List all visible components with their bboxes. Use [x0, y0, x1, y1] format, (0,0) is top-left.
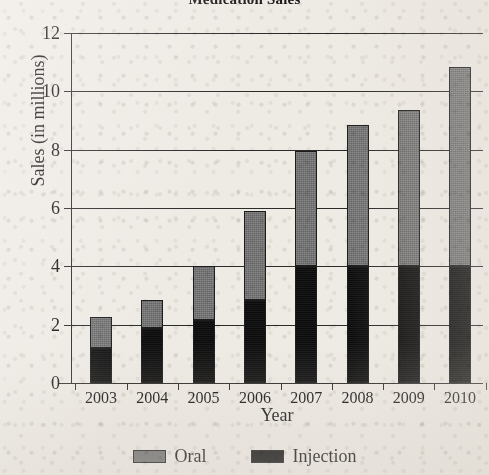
y-axis-title: Sales (in millions)	[28, 0, 49, 251]
x-tick-1	[178, 383, 179, 390]
y-tick-6	[64, 208, 71, 209]
x-tick-start	[75, 383, 76, 390]
legend-swatch-oral	[133, 450, 166, 463]
bar-2003[interactable]	[90, 33, 112, 383]
y-tick-4	[64, 266, 71, 267]
gridline-8	[71, 150, 483, 151]
legend-item-oral[interactable]: Oral	[133, 446, 207, 467]
gridline-4	[71, 266, 483, 267]
y-tick-12	[64, 33, 71, 34]
bar-segment-injection-2008[interactable]	[347, 266, 369, 383]
bar-segment-injection-2009[interactable]	[398, 266, 420, 383]
y-tick-2	[64, 325, 71, 326]
legend-swatch-injection	[251, 450, 284, 463]
bar-segment-injection-2004[interactable]	[141, 328, 163, 383]
bar-segment-injection-2010[interactable]	[449, 266, 471, 383]
x-tick-5	[383, 383, 384, 390]
legend-label-oral: Oral	[175, 446, 207, 467]
x-tick-3	[281, 383, 282, 390]
gridline-2	[71, 325, 483, 326]
y-tick-label-2: 2	[51, 314, 60, 335]
bar-segment-injection-2003[interactable]	[90, 348, 112, 383]
gridline-10	[71, 91, 483, 92]
bar-2010[interactable]	[449, 33, 471, 383]
bar-segment-oral-2008[interactable]	[347, 125, 369, 266]
x-axis-title: Year	[71, 405, 483, 426]
legend-label-injection: Injection	[293, 446, 357, 467]
y-tick-label-8: 8	[51, 139, 60, 160]
bar-2008[interactable]	[347, 33, 369, 383]
bar-segment-oral-2005[interactable]	[193, 266, 215, 320]
bar-segment-oral-2010[interactable]	[449, 67, 471, 267]
x-tick-0	[127, 383, 128, 390]
chart-title: Medication Sales	[0, 0, 489, 8]
x-tick-7	[486, 383, 487, 390]
x-axis-line	[59, 383, 483, 384]
bar-segment-oral-2007[interactable]	[295, 151, 317, 266]
bar-segment-injection-2007[interactable]	[295, 266, 317, 383]
bar-segment-injection-2005[interactable]	[193, 320, 215, 383]
x-tick-4	[332, 383, 333, 390]
y-tick-8	[64, 150, 71, 151]
y-tick-10	[64, 91, 71, 92]
chart-legend: OralInjection	[0, 446, 489, 467]
x-tick-6	[434, 383, 435, 390]
bar-segment-oral-2009[interactable]	[398, 110, 420, 266]
bar-segment-injection-2006[interactable]	[244, 300, 266, 383]
y-tick-label-0: 0	[51, 373, 60, 394]
gridline-6	[71, 208, 483, 209]
y-tick-label-6: 6	[51, 198, 60, 219]
y-axis-line	[71, 33, 72, 383]
bar-2004[interactable]	[141, 33, 163, 383]
bar-segment-oral-2003[interactable]	[90, 317, 112, 348]
bar-2007[interactable]	[295, 33, 317, 383]
y-tick-label-4: 4	[51, 256, 60, 277]
bar-2009[interactable]	[398, 33, 420, 383]
bar-2006[interactable]	[244, 33, 266, 383]
y-tick-0	[64, 383, 71, 384]
bar-segment-oral-2006[interactable]	[244, 211, 266, 300]
x-tick-2	[229, 383, 230, 390]
plot-area: 024681012 200320042005200620072008200920…	[71, 33, 483, 383]
bar-segment-oral-2004[interactable]	[141, 300, 163, 328]
gridline-12	[71, 33, 483, 34]
legend-item-injection[interactable]: Injection	[251, 446, 357, 467]
bar-2005[interactable]	[193, 33, 215, 383]
